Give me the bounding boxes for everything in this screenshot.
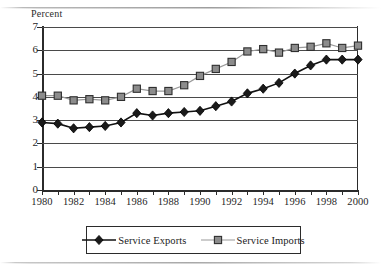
- x-axis-tick-label: 1982: [63, 196, 84, 207]
- x-axis-tick: [263, 190, 264, 195]
- square-marker-icon: [165, 87, 172, 94]
- x-axis-tick-label: 1984: [94, 196, 115, 207]
- diamond-marker-icon: [228, 97, 236, 106]
- scan-artifact-line-bottom-2: [0, 263, 381, 264]
- y-axis-tick-label: 1: [24, 160, 38, 172]
- plot-area: [42, 27, 358, 190]
- x-axis-tick: [121, 190, 122, 195]
- y-axis-title: Percent: [31, 8, 62, 19]
- x-axis-tick-label: 1994: [252, 196, 273, 207]
- square-marker-icon: [117, 93, 124, 100]
- y-axis-tick-label: 3: [24, 113, 38, 125]
- x-axis-tick-label: 1998: [316, 196, 337, 207]
- x-axis-tick: [105, 190, 106, 195]
- x-axis-tick: [311, 190, 312, 195]
- y-axis-tick-label: 0: [24, 183, 38, 195]
- square-marker-icon: [86, 96, 93, 103]
- diamond-marker-icon: [291, 69, 299, 78]
- x-axis-tick-label: 1988: [158, 196, 179, 207]
- diamond-marker-icon: [212, 102, 220, 111]
- diamond-marker-icon: [133, 109, 141, 118]
- square-marker-icon: [181, 82, 188, 89]
- x-axis-tick: [200, 190, 201, 195]
- square-marker-icon: [70, 97, 77, 104]
- diamond-marker-icon: [85, 123, 93, 132]
- x-axis-tick: [58, 190, 59, 195]
- diamond-marker-icon: [243, 89, 251, 98]
- square-marker-icon: [244, 48, 251, 55]
- x-axis-tick: [342, 190, 343, 195]
- y-axis-tick-label: 6: [24, 43, 38, 55]
- x-axis-tick: [295, 190, 296, 195]
- x-axis-tick: [326, 190, 327, 195]
- diamond-marker-icon: [307, 61, 315, 70]
- diamond-marker-icon: [95, 235, 103, 244]
- square-marker-icon: [354, 42, 361, 49]
- diamond-marker-icon: [117, 118, 125, 127]
- series-service-imports: [38, 40, 361, 104]
- x-axis-tick-label: 1986: [126, 196, 147, 207]
- y-axis-tick-label: 2: [24, 136, 38, 148]
- x-axis-tick: [168, 190, 169, 195]
- diamond-marker-icon: [101, 121, 109, 130]
- diamond-marker-icon: [322, 55, 330, 64]
- x-axis-tick-label: 1992: [221, 196, 242, 207]
- square-marker-icon: [102, 97, 109, 104]
- series-service-exports: [38, 55, 362, 133]
- x-axis-tick-label: 1990: [189, 196, 210, 207]
- x-axis-labels: 1980198219841986198819901992199419961998…: [42, 196, 362, 212]
- y-axis-tick-label: 7: [24, 20, 38, 32]
- y-axis-tick-label: 5: [24, 67, 38, 79]
- chart-page: Percent 01234567 19801982198419861988199…: [0, 0, 381, 271]
- square-marker-icon: [228, 58, 235, 65]
- square-marker-icon: [260, 46, 267, 53]
- square-marker-icon: [201, 233, 235, 247]
- square-marker-icon: [307, 43, 314, 50]
- diamond-marker-icon: [164, 109, 172, 118]
- y-axis-labels: 01234567: [20, 27, 38, 190]
- square-marker-icon: [38, 92, 45, 99]
- legend-item-service-imports: Service Imports: [201, 233, 305, 247]
- x-axis-tick-label: 1980: [31, 196, 52, 207]
- diamond-marker-icon: [180, 107, 188, 116]
- y-axis-tick-label: 4: [24, 90, 38, 102]
- square-marker-icon: [323, 40, 330, 47]
- x-axis-tick: [279, 190, 280, 195]
- diamond-marker-icon: [275, 78, 283, 87]
- square-marker-icon: [214, 236, 221, 243]
- x-axis-tick: [358, 190, 359, 195]
- legend-item-service-exports: Service Exports: [82, 233, 186, 247]
- x-axis-tick: [137, 190, 138, 195]
- diamond-marker-icon: [196, 106, 204, 115]
- diamond-marker-icon: [259, 84, 267, 93]
- x-axis-tick: [89, 190, 90, 195]
- series-layer: [42, 27, 358, 190]
- x-axis-tick: [247, 190, 248, 195]
- x-axis-tick: [74, 190, 75, 195]
- diamond-marker-icon: [149, 111, 157, 120]
- square-marker-icon: [54, 92, 61, 99]
- legend-item-label: Service Imports: [235, 235, 305, 246]
- square-marker-icon: [149, 87, 156, 94]
- diamond-marker-icon: [54, 119, 62, 128]
- x-axis-tick: [184, 190, 185, 195]
- diamond-marker-icon: [338, 55, 346, 64]
- square-marker-icon: [212, 65, 219, 72]
- x-axis-tick-label: 1996: [284, 196, 305, 207]
- diamond-marker-icon: [354, 55, 362, 64]
- x-axis-tick: [232, 190, 233, 195]
- x-axis-tick-label: 2000: [347, 196, 368, 207]
- square-marker-icon: [291, 44, 298, 51]
- chart-legend: Service ExportsService Imports: [86, 226, 301, 254]
- diamond-marker-icon: [70, 124, 78, 133]
- x-axis-tick: [216, 190, 217, 195]
- diamond-marker-icon: [82, 233, 116, 247]
- square-marker-icon: [133, 85, 140, 92]
- square-marker-icon: [196, 72, 203, 79]
- legend-item-label: Service Exports: [116, 235, 186, 246]
- square-marker-icon: [339, 44, 346, 51]
- x-axis-tick: [153, 190, 154, 195]
- square-marker-icon: [275, 49, 282, 56]
- x-axis-tick: [42, 190, 43, 195]
